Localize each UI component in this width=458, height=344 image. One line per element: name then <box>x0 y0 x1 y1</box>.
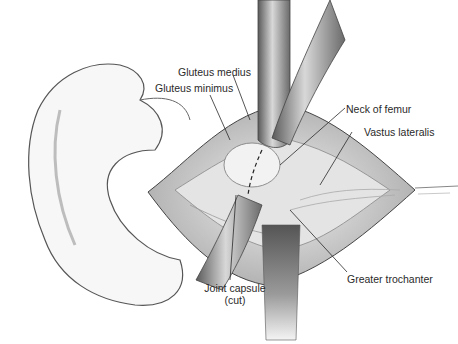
label-vastus-lateralis: Vastus lateralis <box>364 126 434 138</box>
label-joint-capsule-line1: Joint capsule <box>195 282 275 294</box>
label-joint-capsule: Joint capsule (cut) <box>195 282 275 306</box>
label-neck-of-femur: Neck of femur <box>346 103 411 115</box>
label-joint-capsule-line2: (cut) <box>195 294 275 306</box>
label-greater-trochanter: Greater trochanter <box>347 273 433 285</box>
femoral-head <box>224 143 280 187</box>
label-gluteus-minimus: Gluteus minimus <box>155 82 233 94</box>
label-gluteus-medius: Gluteus medius <box>178 66 251 78</box>
surgical-illustration: Gluteus medius Gluteus minimus Neck of f… <box>0 0 458 344</box>
